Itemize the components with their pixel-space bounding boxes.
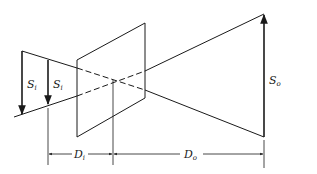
projection-diagram: Si Si So Di Do [0, 0, 317, 174]
label-image-size-inner: Si [53, 78, 63, 92]
ray-top-to-bottom [22, 51, 264, 137]
label-image-distance: Di [73, 148, 85, 162]
projection-plane [77, 23, 145, 137]
label-object-size: So [269, 74, 281, 88]
label-object-distance: Do [183, 148, 197, 162]
label-image-size-outer: Si [27, 78, 37, 92]
